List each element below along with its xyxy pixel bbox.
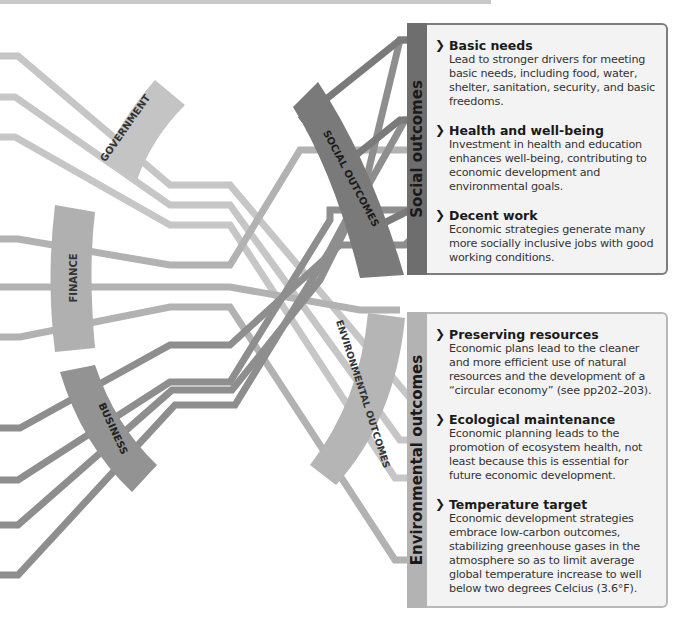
social-outcomes-panel: Social outcomes ❯Basic needs Lead to str… <box>427 23 668 275</box>
social-outcomes-tab-label: Social outcomes <box>408 80 426 218</box>
svg-text:FINANCE: FINANCE <box>68 253 79 302</box>
item-body: Economic strategies generate many more s… <box>449 223 658 265</box>
env-item-ecological-maintenance: ❯Ecological maintenance Economic plannin… <box>427 412 666 483</box>
item-title: Decent work <box>449 208 538 223</box>
environmental-outcomes-panel: Environmental outcomes ❯Preserving resou… <box>427 312 668 608</box>
chevron-right-icon: ❯ <box>435 412 445 427</box>
env-item-preserving-resources: ❯Preserving resources Economic plans lea… <box>427 327 666 398</box>
environmental-outcomes-tab-label: Environmental outcomes <box>408 355 426 565</box>
env-item-temperature-target: ❯Temperature target Economic development… <box>427 497 666 596</box>
social-item-basic-needs: ❯Basic needs Lead to stronger drivers fo… <box>427 38 666 109</box>
item-title: Preserving resources <box>449 327 599 342</box>
item-title: Temperature target <box>449 497 587 512</box>
social-item-decent-work: ❯Decent work Economic strategies generat… <box>427 208 666 265</box>
chevron-right-icon: ❯ <box>435 38 445 53</box>
item-body: Lead to stronger drivers for meeting bas… <box>449 53 658 109</box>
item-title: Basic needs <box>449 38 533 53</box>
item-body: Economic development strategies embrace … <box>449 512 658 596</box>
chevron-right-icon: ❯ <box>435 208 445 223</box>
item-body: Economic plans lead to the cleaner and m… <box>449 342 658 398</box>
social-item-health: ❯Health and well-being Investment in hea… <box>427 123 666 194</box>
chevron-right-icon: ❯ <box>435 327 445 342</box>
finance-block: FINANCE <box>51 205 96 352</box>
item-title: Ecological maintenance <box>449 412 615 427</box>
item-body: Economic planning leads to the promotion… <box>449 427 658 483</box>
social-outcomes-tab: Social outcomes <box>407 23 427 275</box>
government-block: GOVERNMENT <box>98 80 185 180</box>
chevron-right-icon: ❯ <box>435 497 445 512</box>
item-title: Health and well-being <box>449 123 604 138</box>
environmental-outcomes-tab: Environmental outcomes <box>407 312 427 608</box>
chevron-right-icon: ❯ <box>435 123 445 138</box>
item-body: Investment in health and education enhan… <box>449 138 658 194</box>
